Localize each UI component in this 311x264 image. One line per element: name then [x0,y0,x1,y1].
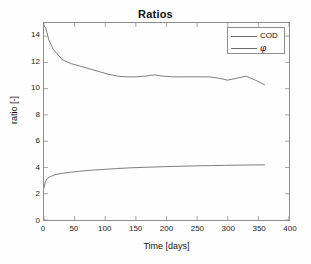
x-tick-label-3: 150 [121,225,151,233]
y-tick-label-3: 6 [14,137,40,145]
x-tick-label-1: 50 [59,225,89,233]
legend-label-COD: COD [260,31,278,41]
y-tick-label-5: 10 [14,84,40,92]
legend-label-phi: φ [260,43,266,53]
x-tick-label-2: 100 [90,225,120,233]
x-tick-label-7: 350 [244,225,274,233]
chart-figure: Ratios ratio [-] 02468101214 05010015020… [0,0,311,264]
y-tick-label-0: 0 [14,217,40,225]
y-tick-label-4: 8 [14,111,40,119]
legend-item-phi[interactable]: φ [228,42,284,54]
legend-line-swatch-COD [231,36,257,37]
series-line-phi [44,165,265,188]
x-tick-label-5: 250 [182,225,212,233]
chart-legend[interactable]: CODφ [227,27,285,54]
y-axis-tick-labels: 02468101214 [12,22,40,221]
legend-line-swatch-phi [231,48,257,49]
y-tick-label-1: 2 [14,190,40,198]
x-tick-label-6: 300 [213,225,243,233]
y-tick-label-7: 14 [14,31,40,39]
chart-title: Ratios [0,8,311,20]
y-tick-label-2: 4 [14,164,40,172]
x-tick-label-0: 0 [28,225,58,233]
x-axis-label: Time [days] [43,241,290,251]
x-tick-label-4: 200 [152,225,182,233]
legend-item-COD[interactable]: COD [228,30,284,42]
x-axis-tick-labels: 050100150200250300350400 [43,225,290,237]
x-tick-label-8: 400 [275,225,305,233]
y-tick-label-6: 12 [14,58,40,66]
